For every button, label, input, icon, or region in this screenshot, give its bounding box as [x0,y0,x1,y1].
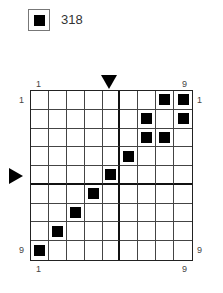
grid-cell [49,91,67,110]
grid-cell [49,166,67,185]
col-label-bottom-last: 9 [182,264,187,274]
grid-cell-filled [156,129,174,148]
grid-cell [85,222,103,241]
grid-cell [85,241,103,260]
grid-cell [103,110,121,129]
row-label-right-first: 1 [197,95,202,105]
grid-cell-filled [174,110,192,129]
grid-cell [49,110,67,129]
grid-cell [103,204,121,223]
grid-cell [174,185,192,204]
grid-cell [67,241,85,260]
grid-cell [174,147,192,166]
grid-cell-filled [174,91,192,110]
grid-cell [67,166,85,185]
filled-square-icon [34,15,45,26]
grid-cell [138,185,156,204]
grid-cell [85,110,103,129]
grid-cell-filled [156,91,174,110]
grid-cell [138,166,156,185]
grid-cell [156,110,174,129]
col-label-bottom-first: 1 [36,264,41,274]
grid-cell [174,129,192,148]
grid-cell [174,204,192,223]
grid-cell [138,222,156,241]
grid-cell [120,91,138,110]
grid-cell [31,91,49,110]
grid-cell [138,147,156,166]
grid-cell [31,204,49,223]
grid-cell [103,91,121,110]
grid-cell [120,129,138,148]
grid-cell-filled [67,204,85,223]
grid-cell [85,91,103,110]
grid-cell [120,241,138,260]
grid-cell-filled [138,129,156,148]
grid-cell [174,166,192,185]
grid-cell [120,110,138,129]
grid-cell [67,91,85,110]
grid-cell [49,204,67,223]
grid-cell [138,204,156,223]
grid-cell [31,110,49,129]
grid-cell [31,147,49,166]
grid-cell-filled [49,222,67,241]
grid-cell [85,166,103,185]
column-marker-arrow-icon [101,75,117,89]
grid-cell [67,110,85,129]
grid-cell [31,129,49,148]
grid-cell [120,166,138,185]
grid-cell [174,222,192,241]
grid-cell [120,222,138,241]
grid-cell [49,129,67,148]
row-label-right-last: 9 [197,245,202,255]
grid-cell [138,91,156,110]
grid-cell [174,241,192,260]
grid-cell [85,204,103,223]
grid-cell [120,204,138,223]
row-label-left-first: 1 [19,95,24,105]
grid-cell [31,185,49,204]
grid-cell-filled [138,110,156,129]
grid-cell-filled [85,185,103,204]
grid-cell [49,185,67,204]
pattern-grid [30,90,193,261]
grid-cell [103,129,121,148]
grid-cell [67,147,85,166]
row-marker-arrow-icon [9,168,23,184]
grid-cell [49,147,67,166]
grid-cell [156,147,174,166]
legend-label: 318 [61,12,83,28]
grid-cell [156,166,174,185]
col-label-top-first: 1 [36,79,41,89]
grid-cell-filled [31,241,49,260]
grid-cell [85,147,103,166]
grid-cell [103,241,121,260]
row-label-left-last: 9 [19,245,24,255]
grid-cell [103,222,121,241]
grid-cell [156,241,174,260]
grid-cell [103,185,121,204]
grid-cell [31,222,49,241]
grid-cell [156,222,174,241]
grid-cell [85,129,103,148]
legend-box [28,9,50,31]
grid-cell [156,204,174,223]
grid-cell [103,147,121,166]
grid-cell [67,185,85,204]
grid-cell [67,222,85,241]
grid-cell-filled [103,166,121,185]
grid-cell [156,185,174,204]
grid-cell [49,241,67,260]
grid-cell [120,185,138,204]
col-label-top-last: 9 [182,79,187,89]
grid-cell [31,166,49,185]
grid-cell [138,241,156,260]
grid-cell-filled [120,147,138,166]
grid-cell [67,129,85,148]
